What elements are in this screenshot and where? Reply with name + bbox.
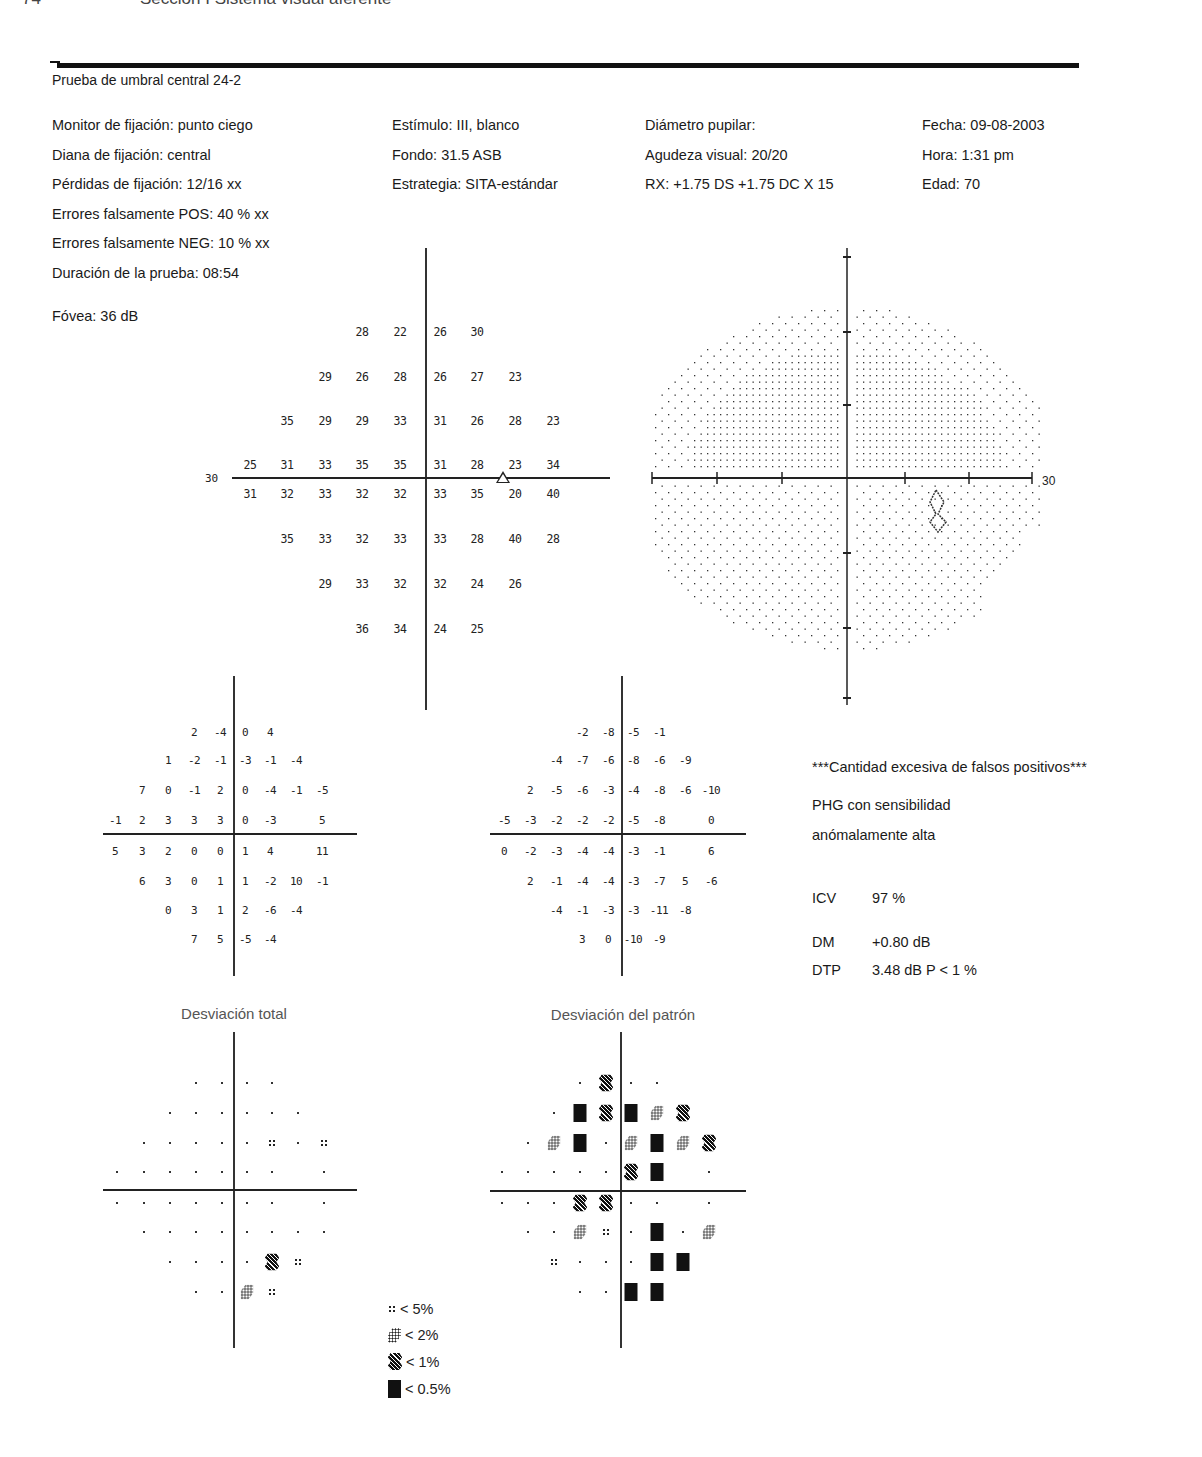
pd-value: -5 [627,814,639,827]
pd-value: -5 [550,784,562,797]
td-value: 3 [191,814,197,827]
threshold-value: 26 [434,325,447,339]
normal-dot-icon [169,1202,171,1204]
td-value: 0 [242,784,248,797]
pd-value: -7 [653,875,665,888]
md-label: DM [812,934,835,950]
normal-dot-icon [195,1231,197,1233]
td-value: 11 [316,845,328,858]
normal-dot-icon [116,1171,118,1173]
legend-item-05: < 0.5% [388,1380,451,1398]
pd-vertical-axis [621,676,623,976]
p2-stipple-icon [651,1106,664,1121]
info-column-fixation: Monitor de fijación: punto ciego Diana d… [52,111,270,288]
normal-dot-icon [116,1202,118,1204]
normal-dot-icon [271,1202,273,1204]
info-line: Pérdidas de fijación: 12/16 xx [52,170,270,200]
threshold-vertical-axis [425,248,427,710]
info-column-stimulus: Estímulo: III, blanco Fondo: 31.5 ASB Es… [392,111,558,200]
pd-value: -5 [627,726,639,739]
info-line: RX: +1.75 DS +1.75 DC X 15 [645,170,834,200]
normal-dot-icon [501,1202,503,1204]
legend-label: < 0.5% [405,1381,451,1397]
p05-solid-square-icon [388,1380,401,1398]
pd-value: -3 [627,904,639,917]
legend-item-5: < 5% [388,1301,433,1317]
pd-value: -6 [679,784,691,797]
info-column-eye: Diámetro pupilar: Agudeza visual: 20/20 … [645,111,834,200]
td-value: -1 [290,784,302,797]
pd-value: -8 [627,754,639,767]
threshold-value: 40 [509,532,522,546]
normal-dot-icon [221,1171,223,1173]
pd-value: -4 [576,875,588,888]
threshold-value: 28 [471,458,484,472]
normal-dot-icon [271,1112,273,1114]
threshold-value: 31 [434,458,447,472]
p05-solid-square-icon [574,1134,587,1152]
td-value: -4 [214,726,226,739]
pd-value: -8 [602,726,614,739]
threshold-value: 32 [394,577,407,591]
td-value: 1 [217,904,223,917]
p5-dots-icon [320,1139,328,1147]
pattern-deviation-caption: Desviación del patrón [551,1006,695,1023]
normal-dot-icon [143,1142,145,1144]
pd-value: -6 [705,875,717,888]
pd-value: 0 [605,933,611,946]
p1-checker-icon [388,1353,402,1370]
threshold-value: 35 [471,487,484,501]
td-value: -1 [214,754,226,767]
td-value: -1 [188,784,200,797]
header-rule [57,63,1079,68]
threshold-value: 26 [434,370,447,384]
normal-dot-icon [656,1202,658,1204]
tdp-horizontal-axis [103,1189,357,1191]
normal-dot-icon [195,1202,197,1204]
info-line: Errores falsamente POS: 40 % xx [52,200,270,230]
p05-solid-square-icon [651,1283,664,1301]
p5-dots-icon [550,1258,558,1266]
p05-solid-square-icon [651,1134,664,1152]
vfi-value: 97 % [872,890,905,906]
pd-value: -2 [524,845,536,858]
normal-dot-icon [553,1112,555,1114]
td-value: 2 [242,904,248,917]
normal-dot-icon [221,1112,223,1114]
pd-value: -8 [653,784,665,797]
td-value: 2 [191,726,197,739]
pd-value: 0 [501,845,507,858]
pd-value: -3 [627,875,639,888]
info-line: Diámetro pupilar: [645,111,834,141]
pd-value: -3 [602,904,614,917]
threshold-value: 32 [281,487,294,501]
td-value: 1 [242,875,248,888]
threshold-axis-label: 30 [205,472,218,485]
normal-dot-icon [553,1202,555,1204]
normal-dot-icon [221,1291,223,1293]
p1-checker-icon [599,1105,613,1122]
grayscale-plot [640,240,1070,710]
normal-dot-icon [271,1231,273,1233]
normal-dot-icon [221,1202,223,1204]
threshold-value: 32 [434,577,447,591]
info-line: Monitor de fijación: punto ciego [52,111,270,141]
pd-value: -6 [653,754,665,767]
threshold-value: 28 [509,414,522,428]
pd-value: -2 [550,814,562,827]
info-line: Duración de la prueba: 08:54 [52,259,270,289]
td-value: 4 [267,845,273,858]
threshold-value: 28 [471,532,484,546]
threshold-value: 31 [434,414,447,428]
legend-label: < 5% [400,1301,433,1317]
td-value: 10 [290,875,302,888]
p1-checker-icon [676,1105,690,1122]
td-value: 1 [242,845,248,858]
normal-dot-icon [169,1261,171,1263]
p05-solid-square-icon [625,1283,638,1301]
threshold-value: 35 [394,458,407,472]
legend-item-1: < 1% [388,1353,439,1370]
pd-value: -6 [576,784,588,797]
normal-dot-icon [195,1291,197,1293]
pd-value: -3 [627,845,639,858]
